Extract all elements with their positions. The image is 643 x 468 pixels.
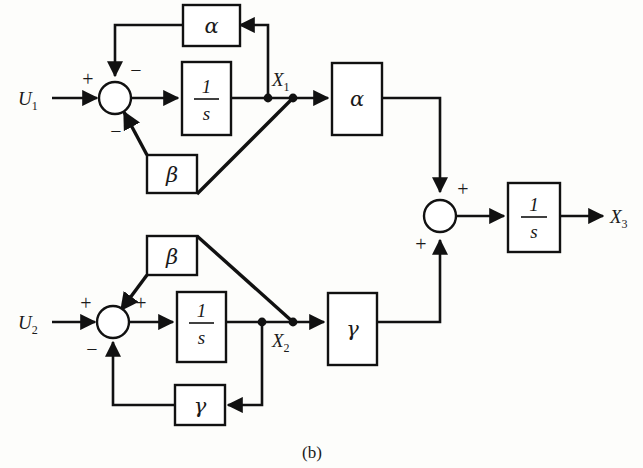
- signal-label-x3: X3: [609, 206, 628, 231]
- block-beta-upper-label: β: [165, 163, 178, 187]
- block-integrator-3-numerator: 1: [529, 194, 539, 215]
- block-integrator-2-denominator: s: [198, 327, 205, 348]
- signal-label-u2: U2: [18, 312, 38, 337]
- sign-sum-top-bottom: −: [110, 120, 121, 142]
- block-integrator-1-denominator: s: [203, 103, 210, 124]
- signal-label-x1: X1: [271, 69, 290, 94]
- summing-junction-right: [424, 200, 456, 232]
- block-diagram-figure: α 1 s X1 α β β: [0, 0, 643, 468]
- wire-beta-upper-to-sum-top: [124, 112, 147, 155]
- takeoff-dot-x1-alpha-feedback: [264, 94, 273, 103]
- sign-sum-top-left: +: [82, 68, 93, 90]
- block-integrator-3-denominator: s: [530, 221, 537, 242]
- figure-caption: (b): [302, 443, 322, 462]
- sign-sum-right-bottom: +: [415, 233, 426, 255]
- wire-gamma-forward-to-sum-right: [377, 240, 440, 322]
- sign-sum-top-top: −: [130, 59, 141, 81]
- signal-label-u1: U1: [18, 88, 38, 113]
- block-gamma-forward-label: γ: [346, 317, 359, 341]
- summing-junction-top: [99, 82, 131, 114]
- block-integrator-2-numerator: 1: [197, 300, 207, 321]
- signal-label-x2: X2: [271, 330, 290, 355]
- block-alpha-feedback-top-label: α: [204, 14, 218, 38]
- block-beta-lower-label: β: [165, 245, 178, 269]
- summing-junction-bottom: [97, 306, 129, 338]
- wire-alpha-feedback-to-sum-top: [115, 25, 183, 76]
- takeoff-dot-x2-cross: [289, 318, 298, 327]
- block-integrator-1-numerator: 1: [202, 76, 212, 97]
- sign-sum-bottom-left: +: [80, 292, 91, 314]
- wire-x2-takeoff-to-gamma-feedback: [228, 322, 262, 405]
- block-gamma-feedback-bottom-label: γ: [194, 394, 207, 418]
- block-alpha-forward-label: α: [350, 87, 364, 111]
- sign-sum-bottom-top: +: [135, 292, 146, 314]
- wire-alpha-forward-to-sum-right: [382, 98, 440, 192]
- block-diagram-canvas: α 1 s X1 α β β: [0, 0, 643, 468]
- sign-sum-right-top: +: [457, 178, 468, 200]
- wire-x1-takeoff-to-alpha-feedback: [240, 25, 268, 98]
- wire-gamma-feedback-to-sum-bottom: [113, 342, 175, 405]
- sign-sum-bottom-bottom: −: [86, 338, 97, 360]
